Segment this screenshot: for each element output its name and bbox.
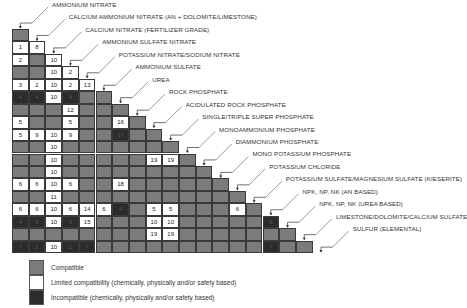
item-label: AMMONIUM NITRATE bbox=[52, 1, 116, 8]
item-label: ACIDULATED ROCK PHOSPHATE bbox=[186, 101, 286, 108]
legend-label-compatible: Compatible bbox=[51, 264, 84, 271]
item-label: DIAMMONIUM PHOSPHATE bbox=[236, 138, 319, 145]
item-label: SULFUR (ELEMENTAL) bbox=[353, 225, 422, 232]
item-label: UREA bbox=[152, 76, 170, 83]
item-label: MONOAMMONIUM PHOSPHATE bbox=[219, 126, 315, 133]
item-label: AMMONIUM SULFATE bbox=[136, 63, 201, 70]
legend-swatch-limited bbox=[29, 275, 44, 290]
item-label: CALCIUM AMMONIUM NITRATE (AN + DOLOMITE/… bbox=[69, 13, 257, 20]
legend-swatch-incompatible bbox=[29, 290, 44, 305]
item-label: LIMESTONE/DOLOMITE/CALCIUM SULFATE bbox=[336, 213, 467, 220]
item-label: POTASSIUM SULFATE/MAGNESIUM SULFATE (KIE… bbox=[286, 175, 462, 182]
item-label: NPK, NP, NK (AN BASED) bbox=[303, 188, 378, 195]
item-label: SINGLE/TRIPLE SUPER PHOSPHATE bbox=[202, 113, 313, 120]
item-label: AMMONIUM SULFATE NITRATE bbox=[102, 38, 196, 45]
item-label: POTASSIUM NITRATE/SODIUM NITRATE bbox=[119, 51, 240, 58]
item-label: MONO POTASSIUM PHOSPHATE bbox=[252, 150, 351, 157]
legend-label-limited: Limited compatibility (chemically, physi… bbox=[51, 279, 236, 286]
item-label: CALCIUM NITRATE (FERTILIZER GRADE) bbox=[85, 26, 209, 33]
legend-swatch-compatible bbox=[29, 260, 44, 275]
legend-label-incompatible: Incompatible (chemically, physically and… bbox=[51, 294, 215, 301]
item-label: ROCK PHOSPHATE bbox=[169, 88, 228, 95]
item-label: NPK, NP, NK (UREA BASED) bbox=[319, 200, 403, 207]
item-label: POTASSIUM CHLORIDE bbox=[269, 163, 340, 170]
